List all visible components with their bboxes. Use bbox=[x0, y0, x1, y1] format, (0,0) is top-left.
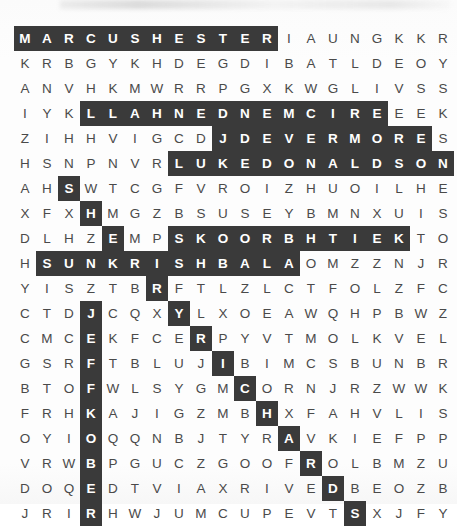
grid-cell[interactable]: Q bbox=[58, 476, 80, 501]
grid-cell[interactable]: M bbox=[344, 126, 366, 151]
grid-cell[interactable]: Z bbox=[366, 251, 388, 276]
grid-cell[interactable]: S bbox=[432, 201, 454, 226]
grid-cell[interactable]: F bbox=[168, 176, 190, 201]
grid-cell[interactable]: R bbox=[300, 451, 322, 476]
grid-cell[interactable]: T bbox=[322, 51, 344, 76]
grid-cell[interactable]: L bbox=[344, 51, 366, 76]
grid-cell[interactable]: R bbox=[36, 401, 58, 426]
grid-cell[interactable]: E bbox=[388, 101, 410, 126]
grid-cell[interactable]: G bbox=[14, 351, 36, 376]
grid-cell[interactable]: D bbox=[168, 51, 190, 76]
grid-cell[interactable]: A bbox=[190, 476, 212, 501]
grid-cell[interactable]: D bbox=[366, 51, 388, 76]
grid-cell[interactable]: U bbox=[168, 351, 190, 376]
grid-cell[interactable]: E bbox=[366, 476, 388, 501]
grid-cell[interactable]: V bbox=[190, 176, 212, 201]
grid-cell[interactable]: B bbox=[168, 201, 190, 226]
grid-cell[interactable]: C bbox=[212, 501, 234, 526]
grid-cell[interactable]: G bbox=[322, 76, 344, 101]
grid-cell[interactable]: U bbox=[322, 26, 344, 51]
grid-cell[interactable]: O bbox=[234, 451, 256, 476]
grid-cell[interactable]: T bbox=[410, 226, 432, 251]
grid-cell[interactable]: C bbox=[278, 276, 300, 301]
grid-cell[interactable]: E bbox=[80, 326, 102, 351]
grid-cell[interactable]: S bbox=[190, 26, 212, 51]
grid-cell[interactable]: E bbox=[300, 126, 322, 151]
grid-cell[interactable]: Y bbox=[102, 51, 124, 76]
grid-cell[interactable]: P bbox=[366, 301, 388, 326]
grid-cell[interactable]: G bbox=[124, 201, 146, 226]
grid-cell[interactable]: A bbox=[234, 251, 256, 276]
grid-cell[interactable]: H bbox=[80, 76, 102, 101]
grid-cell[interactable]: F bbox=[80, 351, 102, 376]
grid-cell[interactable]: V bbox=[300, 426, 322, 451]
grid-cell[interactable]: Z bbox=[190, 401, 212, 426]
grid-cell[interactable]: Z bbox=[410, 476, 432, 501]
grid-cell[interactable]: O bbox=[410, 151, 432, 176]
grid-cell[interactable]: M bbox=[278, 351, 300, 376]
grid-cell[interactable]: B bbox=[344, 351, 366, 376]
grid-cell[interactable]: B bbox=[58, 51, 80, 76]
grid-cell[interactable]: R bbox=[190, 76, 212, 101]
grid-cell[interactable]: K bbox=[80, 401, 102, 426]
grid-cell[interactable]: C bbox=[146, 326, 168, 351]
grid-cell[interactable]: E bbox=[366, 426, 388, 451]
grid-cell[interactable]: L bbox=[168, 151, 190, 176]
grid-cell[interactable]: N bbox=[388, 251, 410, 276]
grid-cell[interactable]: K bbox=[366, 326, 388, 351]
grid-cell[interactable]: U bbox=[212, 201, 234, 226]
grid-cell[interactable]: O bbox=[212, 226, 234, 251]
grid-cell[interactable]: T bbox=[124, 476, 146, 501]
grid-cell[interactable]: H bbox=[102, 501, 124, 526]
grid-cell[interactable]: K bbox=[410, 26, 432, 51]
grid-cell[interactable]: A bbox=[278, 426, 300, 451]
grid-cell[interactable]: K bbox=[432, 101, 454, 126]
grid-cell[interactable]: E bbox=[366, 101, 388, 126]
grid-cell[interactable]: V bbox=[300, 501, 322, 526]
grid-cell[interactable]: S bbox=[168, 251, 190, 276]
grid-cell[interactable]: L bbox=[344, 151, 366, 176]
grid-cell[interactable]: I bbox=[36, 276, 58, 301]
grid-cell[interactable]: K bbox=[212, 151, 234, 176]
grid-cell[interactable]: N bbox=[300, 151, 322, 176]
grid-cell[interactable]: S bbox=[190, 201, 212, 226]
grid-cell[interactable]: J bbox=[80, 301, 102, 326]
grid-cell[interactable]: T bbox=[102, 351, 124, 376]
grid-cell[interactable]: L bbox=[146, 351, 168, 376]
grid-cell[interactable]: R bbox=[146, 276, 168, 301]
grid-cell[interactable]: U bbox=[190, 151, 212, 176]
grid-cell[interactable]: R bbox=[388, 126, 410, 151]
grid-cell[interactable]: S bbox=[58, 176, 80, 201]
grid-cell[interactable]: M bbox=[388, 451, 410, 476]
grid-cell[interactable]: E bbox=[234, 151, 256, 176]
grid-cell[interactable]: H bbox=[300, 226, 322, 251]
grid-cell[interactable]: O bbox=[322, 451, 344, 476]
grid-cell[interactable]: L bbox=[190, 301, 212, 326]
grid-cell[interactable]: E bbox=[256, 126, 278, 151]
grid-cell[interactable]: G bbox=[146, 126, 168, 151]
grid-cell[interactable]: E bbox=[168, 326, 190, 351]
grid-cell[interactable]: V bbox=[366, 401, 388, 426]
grid-cell[interactable]: H bbox=[300, 176, 322, 201]
grid-cell[interactable]: Z bbox=[366, 376, 388, 401]
grid-cell[interactable]: J bbox=[14, 501, 36, 526]
grid-cell[interactable]: G bbox=[190, 376, 212, 401]
grid-cell[interactable]: T bbox=[102, 276, 124, 301]
grid-cell[interactable]: I bbox=[256, 476, 278, 501]
grid-cell[interactable]: Z bbox=[80, 276, 102, 301]
grid-cell[interactable]: F bbox=[278, 451, 300, 476]
grid-cell[interactable]: X bbox=[14, 201, 36, 226]
grid-cell[interactable]: B bbox=[388, 301, 410, 326]
grid-cell[interactable]: M bbox=[322, 251, 344, 276]
grid-cell[interactable]: N bbox=[168, 101, 190, 126]
grid-cell[interactable]: V bbox=[14, 451, 36, 476]
grid-cell[interactable]: H bbox=[58, 401, 80, 426]
grid-cell[interactable]: E bbox=[234, 26, 256, 51]
grid-cell[interactable]: R bbox=[234, 476, 256, 501]
grid-cell[interactable]: O bbox=[344, 176, 366, 201]
grid-cell[interactable]: O bbox=[300, 251, 322, 276]
grid-cell[interactable]: R bbox=[36, 51, 58, 76]
grid-cell[interactable]: O bbox=[344, 276, 366, 301]
grid-cell[interactable]: Y bbox=[234, 326, 256, 351]
grid-cell[interactable]: F bbox=[36, 201, 58, 226]
